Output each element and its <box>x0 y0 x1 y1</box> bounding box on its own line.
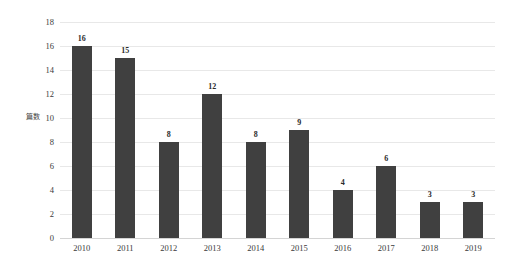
x-axis-labels-group: 2010201120122013201420152016201720182019 <box>60 243 495 259</box>
bar <box>72 46 92 238</box>
bar-value-label: 6 <box>384 154 388 163</box>
y-tick-label: 14 <box>46 65 55 75</box>
bar-value-label: 3 <box>428 190 432 199</box>
bar <box>289 130 309 238</box>
bar <box>420 202 440 238</box>
gridline-0: 0 <box>60 238 495 239</box>
bar-group: 8 <box>234 22 278 238</box>
bar-value-label: 16 <box>78 34 86 43</box>
y-tick-label: 12 <box>46 89 55 99</box>
bar <box>246 142 266 238</box>
x-tick-label: 2011 <box>104 243 148 253</box>
bar <box>159 142 179 238</box>
bar-value-label: 3 <box>471 190 475 199</box>
bar-group: 8 <box>147 22 191 238</box>
y-tick-label: 8 <box>50 137 54 147</box>
y-tick-label: 4 <box>50 185 54 195</box>
x-tick-label: 2017 <box>365 243 409 253</box>
bar-value-label: 8 <box>167 130 171 139</box>
bar-chart: 篇数 024681012141618 1615812894633 2010201… <box>0 0 513 271</box>
x-tick-label: 2016 <box>321 243 365 253</box>
bar-group: 12 <box>191 22 235 238</box>
bar <box>333 190 353 238</box>
bar-value-label: 9 <box>297 118 301 127</box>
y-tick-label: 18 <box>46 17 55 27</box>
x-tick-label: 2013 <box>191 243 235 253</box>
bar-value-label: 15 <box>121 46 129 55</box>
bar-value-label: 4 <box>341 178 345 187</box>
bar-group: 6 <box>365 22 409 238</box>
bar <box>202 94 222 238</box>
bar-value-label: 12 <box>208 82 216 91</box>
x-tick-label: 2015 <box>278 243 322 253</box>
y-tick-label: 10 <box>46 113 55 123</box>
bars-group: 1615812894633 <box>60 22 495 238</box>
y-tick-label: 2 <box>50 209 54 219</box>
bar-group: 9 <box>278 22 322 238</box>
x-tick-label: 2012 <box>147 243 191 253</box>
bar <box>115 58 135 238</box>
bar <box>463 202 483 238</box>
plot-area: 024681012141618 1615812894633 <box>60 22 495 238</box>
bar <box>376 166 396 238</box>
bar-group: 15 <box>104 22 148 238</box>
bar-group: 3 <box>408 22 452 238</box>
bar-group: 3 <box>452 22 496 238</box>
y-tick-label: 6 <box>50 161 54 171</box>
bar-value-label: 8 <box>254 130 258 139</box>
x-tick-label: 2010 <box>60 243 104 253</box>
x-tick-label: 2019 <box>452 243 496 253</box>
y-tick-label: 0 <box>50 233 54 243</box>
bar-group: 4 <box>321 22 365 238</box>
bar-group: 16 <box>60 22 104 238</box>
x-tick-label: 2014 <box>234 243 278 253</box>
x-tick-label: 2018 <box>408 243 452 253</box>
y-tick-label: 16 <box>46 41 55 51</box>
